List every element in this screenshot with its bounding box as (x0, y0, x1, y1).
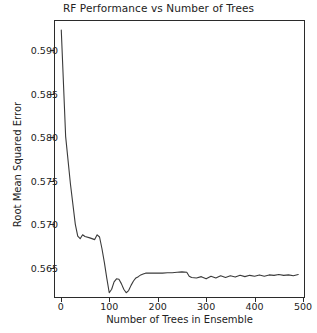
chart-figure: RF Performance vs Number of Trees 0.5650… (0, 0, 317, 333)
rmse-line-series (61, 30, 298, 293)
y-tick-mark (50, 181, 54, 182)
x-tick-mark (255, 298, 256, 302)
y-tick-mark (50, 137, 54, 138)
x-tick-mark (61, 298, 62, 302)
x-tick-label: 500 (294, 301, 312, 312)
x-tick-mark (109, 298, 110, 302)
y-tick-mark (50, 224, 54, 225)
plot-canvas (54, 20, 305, 298)
y-axis-label: Root Mean Squared Error (12, 85, 23, 245)
x-tick-mark (303, 298, 304, 302)
x-tick-label: 0 (58, 301, 64, 312)
y-tick-mark (50, 268, 54, 269)
x-tick-mark (206, 298, 207, 302)
x-tick-label: 400 (246, 301, 264, 312)
x-tick-label: 300 (197, 301, 215, 312)
y-tick-mark (50, 50, 54, 51)
chart-title: RF Performance vs Number of Trees (0, 2, 317, 14)
x-tick-mark (158, 298, 159, 302)
x-tick-label: 100 (100, 301, 118, 312)
y-tick-mark (50, 94, 54, 95)
x-axis-label: Number of Trees in Ensemble (54, 314, 305, 325)
x-tick-label: 200 (149, 301, 167, 312)
